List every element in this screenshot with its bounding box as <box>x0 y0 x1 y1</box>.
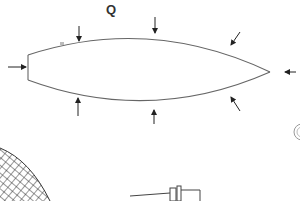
lens-body <box>28 39 270 101</box>
circle-fragment <box>294 124 300 140</box>
surface-mark <box>60 42 64 45</box>
diagram-canvas: Q <box>0 0 300 201</box>
pressure-arrows <box>8 17 296 124</box>
arrow-top-right-icon <box>231 32 240 45</box>
mesh-net <box>0 140 60 201</box>
mechanical-part <box>130 186 200 201</box>
pressure-diagram <box>0 0 300 201</box>
arrow-bottom-right-icon <box>231 97 240 111</box>
